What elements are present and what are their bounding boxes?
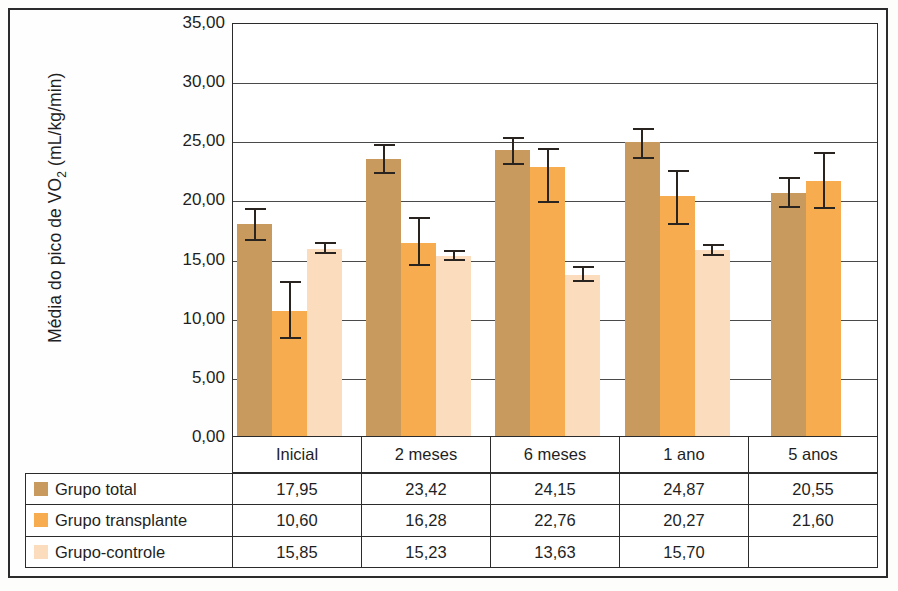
legend-entry: Grupo-controle <box>26 537 233 568</box>
error-bar-cap-bottom <box>573 280 594 282</box>
error-bar-cap-top <box>538 148 559 150</box>
error-bar-cap-bottom <box>633 157 654 159</box>
legend-entry: Grupo total <box>26 474 233 504</box>
y-tick-label: 20,00 <box>150 190 225 210</box>
legend-swatch-icon <box>34 545 48 559</box>
data-table: Grupo total17,9523,4224,1524,8720,55Grup… <box>25 473 878 568</box>
y-axis-title-before: Média do pico de VO <box>45 178 65 343</box>
plot-area <box>232 23 878 437</box>
table-cell: 20,27 <box>620 505 749 535</box>
table-cell: 10,60 <box>233 505 362 535</box>
error-bar-cap-bottom <box>245 239 266 241</box>
y-tick-label: 15,00 <box>150 250 225 270</box>
error-bar <box>823 152 825 209</box>
bar-group <box>362 24 491 436</box>
table-cell: 22,76 <box>491 505 620 535</box>
y-tick-label: 10,00 <box>150 309 225 329</box>
y-tick-label: 5,00 <box>150 368 225 388</box>
y-axis-title-after: (mL/kg/min) <box>45 72 65 170</box>
table-row: Grupo total17,9523,4224,1524,8720,55 <box>26 474 877 505</box>
bar-slot <box>660 22 695 436</box>
category-label-4: 1 ano <box>620 437 749 472</box>
error-bar-cap-top <box>503 137 524 139</box>
category-label-3: 6 meses <box>491 437 620 472</box>
bar-slot <box>495 22 530 436</box>
legend-label: Grupo transplante <box>55 511 187 530</box>
bar-slot <box>272 22 307 436</box>
error-bar-cap-bottom <box>280 337 301 339</box>
table-row: Grupo-controle15,8515,2313,6315,70 <box>26 537 877 568</box>
error-bar-cap-top <box>814 152 835 154</box>
error-bar-cap-top <box>703 244 724 246</box>
error-bar <box>788 177 790 208</box>
legend-label: Grupo total <box>55 480 137 499</box>
table-cell: 17,95 <box>233 474 362 504</box>
error-bar-cap-bottom <box>374 172 395 174</box>
category-axis-strip: Inicial2 meses6 meses1 ano5 anos <box>232 437 878 473</box>
error-bar-cap-bottom <box>409 264 430 266</box>
bar[interactable] <box>237 224 272 436</box>
table-cell: 24,15 <box>491 474 620 504</box>
chart-figure: Média do pico de VO2 (mL/kg/min) 0,005,0… <box>0 0 898 591</box>
table-cell: 15,23 <box>362 537 491 568</box>
legend-label: Grupo-controle <box>55 543 165 562</box>
y-tick-label: 25,00 <box>150 131 225 151</box>
legend-swatch-icon <box>34 513 48 527</box>
bar[interactable] <box>436 256 471 436</box>
error-bar-cap-top <box>315 242 336 244</box>
error-bar-cap-top <box>779 177 800 179</box>
category-label-2: 2 meses <box>362 437 491 472</box>
bar[interactable] <box>565 275 600 436</box>
y-tick-label: 35,00 <box>150 13 225 33</box>
bar[interactable] <box>530 167 565 436</box>
error-bar-cap-top <box>374 144 395 146</box>
error-bar-cap-top <box>245 208 266 210</box>
bar[interactable] <box>401 243 436 436</box>
error-bar-cap-top <box>280 281 301 283</box>
bar-group <box>750 24 879 436</box>
error-bar <box>711 244 713 255</box>
error-bar-cap-bottom <box>538 201 559 203</box>
bar[interactable] <box>806 181 841 436</box>
y-axis-tick-labels: 0,005,0010,0015,0020,0025,0030,0035,00 <box>150 23 225 437</box>
error-bar <box>289 281 291 339</box>
bar-group <box>621 24 750 436</box>
error-bar <box>547 148 549 204</box>
bar-slot <box>307 22 342 436</box>
bar[interactable] <box>771 193 806 436</box>
bar[interactable] <box>366 159 401 436</box>
legend-entry: Grupo transplante <box>26 505 233 535</box>
table-cell: 13,63 <box>491 537 620 568</box>
error-bar <box>254 208 256 241</box>
y-tick-label: 30,00 <box>150 72 225 92</box>
bar-slot <box>530 22 565 436</box>
bar-slot <box>237 22 272 436</box>
bar-slot <box>436 22 471 436</box>
y-axis-title-subscript: 2 <box>55 171 69 178</box>
legend-swatch-icon <box>34 482 48 496</box>
bar-group <box>233 24 362 436</box>
error-bar-cap-top <box>409 217 430 219</box>
bar-group <box>491 24 620 436</box>
error-bar-cap-bottom <box>703 254 724 256</box>
category-label-5: 5 anos <box>749 437 877 472</box>
bar[interactable] <box>625 142 660 436</box>
error-bar-cap-top <box>633 128 654 130</box>
error-bar-cap-top <box>668 170 689 172</box>
bar-slot <box>806 22 841 436</box>
bar[interactable] <box>495 150 530 436</box>
bar[interactable] <box>695 250 730 436</box>
bar-slot <box>565 22 600 436</box>
table-cell: 21,60 <box>749 505 877 535</box>
error-bar-cap-top <box>573 266 594 268</box>
bar-slot <box>771 22 806 436</box>
bar[interactable] <box>307 249 342 436</box>
error-bar-cap-bottom <box>814 207 835 209</box>
y-tick-label: 0,00 <box>150 427 225 447</box>
table-cell: 15,85 <box>233 537 362 568</box>
error-bar <box>582 266 584 281</box>
bar[interactable] <box>660 196 695 436</box>
table-cell: 24,87 <box>620 474 749 504</box>
y-axis-title: Média do pico de VO2 (mL/kg/min) <box>45 8 69 408</box>
bar-slot <box>625 22 660 436</box>
